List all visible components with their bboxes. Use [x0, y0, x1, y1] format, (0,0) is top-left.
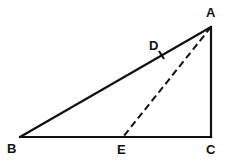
- label-e: E: [117, 142, 126, 157]
- segment-ab: [20, 27, 211, 137]
- label-a: A: [206, 5, 216, 20]
- triangle-diagram: A B C D E: [0, 0, 230, 164]
- label-b: B: [7, 141, 16, 156]
- segment-ae-dashed: [123, 27, 211, 137]
- label-c: C: [206, 142, 216, 157]
- label-d: D: [149, 38, 158, 53]
